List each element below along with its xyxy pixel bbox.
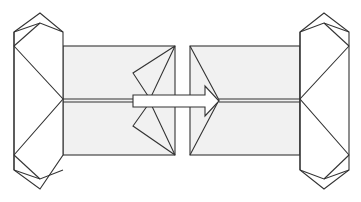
origami-diagram bbox=[0, 0, 361, 202]
right-end-tab bbox=[300, 13, 349, 189]
left-end-tab bbox=[14, 13, 63, 189]
